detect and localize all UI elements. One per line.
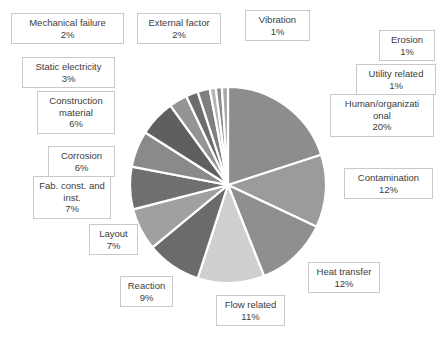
pie-chart-figure: Mechanical failure 2% External factor 2%… (0, 0, 441, 338)
label-name: External factor (142, 17, 216, 29)
label-value: 6% (42, 118, 110, 130)
label-name: Utility related (361, 68, 431, 80)
label-value: 20% (335, 121, 429, 133)
label-value: 1% (250, 26, 305, 38)
label-construction-material: Construction material 6% (37, 91, 115, 134)
label-name: Vibration (250, 14, 305, 26)
label-name: Flow related (221, 299, 280, 311)
label-value: 2% (16, 29, 119, 41)
pie-chart-graphic (128, 85, 328, 285)
label-value: 12% (349, 184, 428, 196)
label-reaction: Reaction 9% (120, 276, 173, 307)
label-name: Erosion (384, 34, 430, 46)
label-mechanical-failure: Mechanical failure 2% (11, 13, 124, 44)
label-name: Heat transfer (313, 266, 375, 278)
label-name: Construction material (42, 95, 110, 118)
label-value: 3% (27, 73, 110, 85)
label-name: Mechanical failure (16, 17, 119, 29)
label-contamination: Contamination 12% (344, 168, 433, 199)
label-vibration: Vibration 1% (245, 10, 310, 41)
label-name: Fab. const. and inst. (38, 180, 106, 203)
label-utility-related: Utility related 1% (356, 64, 436, 95)
label-name: Layout (94, 228, 133, 240)
label-value: 1% (361, 80, 431, 92)
label-name: Reaction (125, 280, 168, 292)
label-value: 7% (38, 203, 106, 215)
label-value: 11% (221, 311, 280, 323)
label-static-electricity: Static electricity 3% (22, 57, 115, 88)
label-erosion: Erosion 1% (379, 30, 435, 61)
label-fab-const-and-inst: Fab. const. and inst. 7% (33, 176, 111, 219)
label-external-factor: External factor 2% (137, 13, 221, 44)
label-value: 2% (142, 29, 216, 41)
label-value: 1% (384, 46, 430, 58)
label-value: 9% (125, 292, 168, 304)
label-human-organizational: Human/organizati onal 20% (330, 94, 434, 137)
label-flow-related: Flow related 11% (216, 295, 285, 326)
label-value: 6% (53, 162, 110, 174)
label-value: 7% (94, 240, 133, 252)
label-name: Human/organizati onal (335, 98, 429, 121)
label-name: Static electricity (27, 61, 110, 73)
label-name: Corrosion (53, 150, 110, 162)
label-value: 12% (313, 278, 375, 290)
label-layout: Layout 7% (89, 224, 138, 255)
pie-slices (128, 85, 328, 285)
label-heat-transfer: Heat transfer 12% (308, 262, 380, 293)
label-name: Contamination (349, 172, 428, 184)
label-corrosion: Corrosion 6% (48, 146, 115, 177)
